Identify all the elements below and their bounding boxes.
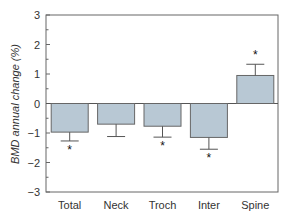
x-tick-label: Spine: [241, 199, 269, 211]
y-tick-label: −3: [27, 186, 40, 198]
y-tick-label: 3: [34, 9, 40, 21]
x-tick-label: Neck: [104, 199, 130, 211]
y-tick-label: 1: [34, 68, 40, 80]
x-tick-label: Troch: [149, 199, 177, 211]
significance-star: *: [207, 151, 212, 165]
bar-spine: [237, 75, 274, 103]
significance-star: *: [67, 143, 72, 157]
significance-star: *: [253, 48, 258, 62]
bar-chart: −3−2−10123*TotalNeck*Troch*Inter*Spine B…: [0, 0, 293, 222]
bars: [51, 64, 274, 149]
y-tick-label: 2: [34, 39, 40, 51]
x-tick-label: Total: [58, 199, 81, 211]
y-tick-label: 0: [34, 98, 40, 110]
bar-troch: [144, 104, 181, 127]
x-tick-label: Inter: [198, 199, 220, 211]
bar-total: [51, 104, 88, 133]
bar-neck: [98, 104, 135, 125]
y-tick-label: −2: [27, 157, 40, 169]
bar-inter: [190, 104, 227, 138]
y-axis-label: BMD annual change (%): [9, 44, 21, 164]
y-tick-label: −1: [27, 127, 40, 139]
significance-star: *: [160, 139, 165, 153]
